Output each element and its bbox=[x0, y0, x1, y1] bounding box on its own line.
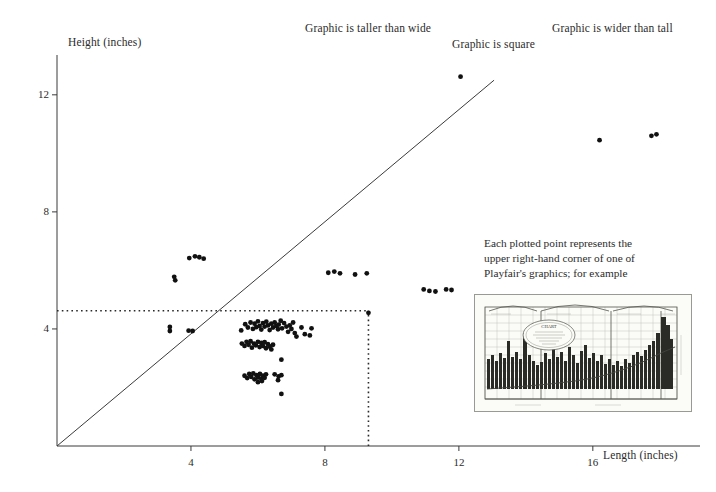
scatter-point bbox=[276, 378, 281, 383]
scatter-point bbox=[280, 326, 285, 331]
scatter-point bbox=[187, 256, 192, 261]
scatter-point bbox=[421, 287, 426, 292]
x-tick-label: 12 bbox=[449, 456, 469, 468]
scatter-point bbox=[353, 272, 358, 277]
thumbnail-cartouche-title: CHART bbox=[541, 324, 556, 329]
scatter-point bbox=[260, 379, 265, 384]
scatter-point bbox=[264, 372, 269, 377]
y-tick-label: 12 bbox=[33, 88, 49, 100]
scatter-point bbox=[433, 289, 438, 294]
scatter-point bbox=[201, 256, 206, 261]
scatter-point bbox=[256, 319, 261, 324]
scatter-point bbox=[364, 271, 369, 276]
scatter-point bbox=[279, 357, 284, 362]
scatter-point bbox=[299, 325, 304, 330]
scatter-point bbox=[190, 329, 195, 334]
scatter-point bbox=[302, 332, 307, 337]
annotation-square: Graphic is square bbox=[452, 38, 535, 50]
scatter-point bbox=[250, 345, 255, 350]
annotation-wider-than-tall: Graphic is wider than tall bbox=[552, 22, 673, 34]
scatter-point bbox=[245, 325, 250, 330]
y-tick-label: 8 bbox=[33, 205, 49, 217]
scatter-point bbox=[427, 289, 432, 294]
scatter-point bbox=[279, 373, 284, 378]
reference-lines bbox=[57, 80, 494, 446]
x-tick-label: 4 bbox=[181, 456, 201, 468]
scatter-point bbox=[291, 320, 296, 325]
scatter-point bbox=[271, 342, 276, 347]
scatter-point bbox=[338, 271, 343, 276]
scatter-point bbox=[449, 288, 454, 293]
scatter-point bbox=[193, 254, 198, 259]
scatter-point bbox=[332, 269, 337, 274]
scatter-point bbox=[326, 270, 331, 275]
scatter-point bbox=[239, 328, 244, 333]
callout-line-3: Playfair's graphics; for example bbox=[484, 266, 674, 281]
scatter-point bbox=[654, 132, 659, 137]
scatter-point bbox=[167, 324, 172, 329]
scatter-point bbox=[444, 287, 449, 292]
scatter-point bbox=[307, 333, 312, 338]
callout-text: Each plotted point represents the upper … bbox=[484, 236, 674, 282]
scatter-point bbox=[276, 327, 281, 332]
scatter-point bbox=[279, 392, 284, 397]
scatter-point bbox=[309, 326, 314, 331]
annotation-taller-than-wide: Graphic is taller than wide bbox=[305, 22, 431, 34]
scatter-point bbox=[269, 347, 274, 352]
y-tick-label: 4 bbox=[33, 322, 49, 334]
scatter-plot-figure: Graphic is taller than wide Graphic is s… bbox=[0, 0, 716, 492]
thumbnail-artwork: CHART bbox=[475, 295, 691, 411]
scatter-point bbox=[294, 334, 299, 339]
square-diagonal bbox=[57, 80, 494, 446]
scatter-point bbox=[173, 278, 178, 283]
scatter-point bbox=[197, 255, 202, 260]
callout-line-2: upper right-hand corner of one of bbox=[484, 251, 674, 266]
scatter-point bbox=[649, 133, 654, 138]
scatter-point bbox=[366, 310, 371, 315]
x-tick-label: 8 bbox=[315, 456, 335, 468]
callout-line-1: Each plotted point represents the bbox=[484, 236, 674, 251]
scatter-point bbox=[289, 327, 294, 332]
x-tick-label: 16 bbox=[583, 456, 603, 468]
x-axis-label: Length (inches) bbox=[603, 449, 678, 461]
playfair-chart-thumbnail: CHART bbox=[474, 294, 692, 412]
scatter-point bbox=[458, 74, 463, 79]
scatter-point bbox=[167, 329, 172, 334]
y-axis-label: Height (inches) bbox=[68, 36, 141, 48]
scatter-point bbox=[597, 138, 602, 143]
